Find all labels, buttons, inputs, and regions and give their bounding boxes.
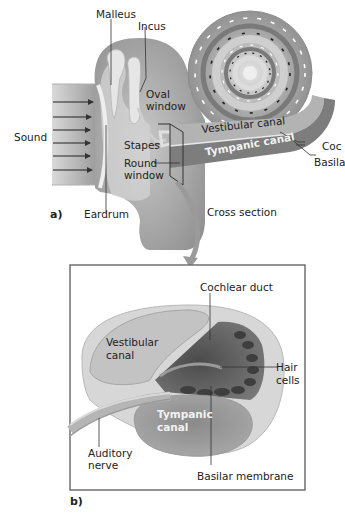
label-basilar-membrane-truncated: Basila <box>314 156 345 168</box>
label-vestibular-canal-line2: canal <box>106 349 134 361</box>
panel-b-letter: b) <box>70 495 83 508</box>
label-tympanic-canal-b-line1: Tympanic <box>157 408 213 420</box>
label-cochlear-duct: Cochlear duct <box>200 281 273 293</box>
tympanic-canal-shape <box>134 395 252 456</box>
label-malleus: Malleus <box>96 8 136 20</box>
label-round-window-line2: window <box>124 169 164 181</box>
label-vestibular-canal-line1: Vestibular <box>106 336 158 348</box>
label-basilar-membrane: Basilar membrane <box>197 470 293 482</box>
label-eardrum: Eardrum <box>84 208 129 220</box>
label-auditory-nerve-line2: nerve <box>88 459 118 471</box>
label-tympanic-canal-b-line2: canal <box>157 421 188 433</box>
label-cochlear-duct-truncated: Coc <box>322 140 342 152</box>
label-stapes: Stapes <box>124 139 160 151</box>
label-round-window-line1: Round <box>124 157 157 169</box>
label-cross-section: Cross section <box>207 206 277 218</box>
label-oval-window-line2: window <box>146 100 186 112</box>
panel-a-letter: a) <box>50 208 62 221</box>
label-hair-cells-line1: Hair <box>276 361 298 373</box>
label-hair-cells-line2: cells <box>276 374 300 386</box>
label-oval-window-line1: Oval <box>146 88 170 100</box>
label-sound: Sound <box>14 131 47 143</box>
label-auditory-nerve-line1: Auditory <box>88 447 133 459</box>
label-incus: Incus <box>138 20 166 32</box>
